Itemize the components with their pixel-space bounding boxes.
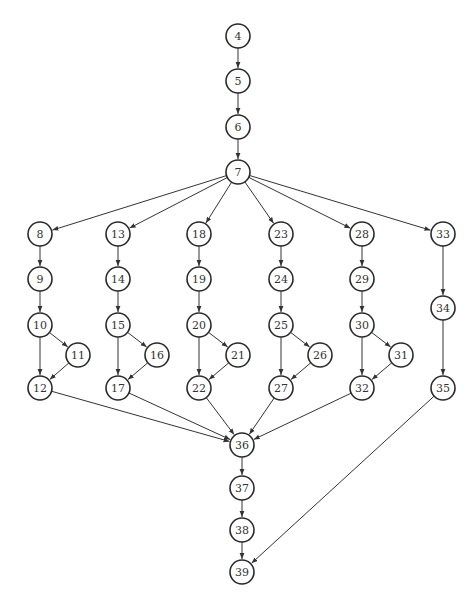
node-label: 38 — [235, 524, 249, 537]
node-label: 5 — [235, 75, 242, 88]
edge-10-to-11 — [49, 332, 67, 347]
node-11: 11 — [66, 343, 90, 367]
node-17: 17 — [106, 376, 130, 400]
node-32: 32 — [350, 376, 374, 400]
edge-35-to-39 — [252, 396, 435, 563]
node-label: 11 — [71, 349, 85, 362]
node-35: 35 — [431, 376, 455, 400]
edge-16-to-17 — [128, 363, 148, 380]
edge-7-to-18 — [206, 182, 232, 223]
node-39: 39 — [230, 560, 254, 584]
node-label: 10 — [33, 319, 47, 332]
node-18: 18 — [187, 222, 211, 246]
node-29: 29 — [350, 267, 374, 291]
node-label: 16 — [150, 349, 164, 362]
node-label: 24 — [274, 273, 288, 286]
node-34: 34 — [431, 296, 455, 320]
node-label: 9 — [37, 273, 44, 286]
node-19: 19 — [187, 267, 211, 291]
node-label: 20 — [192, 319, 206, 332]
node-27: 27 — [269, 376, 293, 400]
node-10: 10 — [28, 313, 52, 337]
node-label: 12 — [33, 382, 47, 395]
node-label: 6 — [235, 121, 242, 134]
control-flow-graph: 4567891011121314151617181920212223242526… — [0, 0, 476, 602]
nodes-layer: 4567891011121314151617181920212223242526… — [28, 24, 455, 584]
node-label: 30 — [355, 319, 369, 332]
node-6: 6 — [226, 115, 250, 139]
node-8: 8 — [28, 222, 52, 246]
node-label: 26 — [313, 349, 327, 362]
edge-21-to-22 — [209, 363, 229, 380]
node-12: 12 — [28, 376, 52, 400]
edge-26-to-27 — [291, 363, 311, 380]
node-label: 35 — [436, 382, 450, 395]
node-20: 20 — [187, 313, 211, 337]
node-label: 27 — [274, 382, 288, 395]
node-label: 37 — [235, 482, 249, 495]
edge-20-to-21 — [209, 332, 228, 347]
node-label: 21 — [231, 349, 245, 362]
node-label: 39 — [235, 566, 249, 579]
node-label: 31 — [394, 349, 408, 362]
node-24: 24 — [269, 267, 293, 291]
edge-15-to-16 — [128, 332, 147, 347]
node-label: 14 — [111, 273, 125, 286]
node-label: 22 — [192, 382, 206, 395]
edge-31-to-32 — [372, 363, 392, 380]
node-label: 13 — [111, 228, 125, 241]
node-label: 34 — [436, 302, 450, 315]
node-21: 21 — [226, 343, 250, 367]
edge-22-to-36 — [206, 398, 234, 435]
node-label: 29 — [355, 273, 369, 286]
edge-7-to-28 — [249, 177, 351, 228]
node-22: 22 — [187, 376, 211, 400]
node-23: 23 — [269, 222, 293, 246]
node-28: 28 — [350, 222, 374, 246]
node-5: 5 — [226, 69, 250, 93]
edge-7-to-13 — [130, 178, 228, 229]
node-14: 14 — [106, 267, 130, 291]
node-15: 15 — [106, 313, 130, 337]
node-13: 13 — [106, 222, 130, 246]
node-label: 15 — [111, 319, 125, 332]
node-label: 33 — [436, 228, 450, 241]
edge-25-to-26 — [291, 332, 310, 347]
node-30: 30 — [350, 313, 374, 337]
node-label: 18 — [192, 228, 206, 241]
node-label: 4 — [235, 30, 242, 43]
node-label: 23 — [274, 228, 288, 241]
edge-11-to-12 — [50, 363, 69, 380]
edge-32-to-36 — [254, 393, 351, 439]
node-label: 8 — [37, 228, 44, 241]
edge-17-to-36 — [129, 393, 230, 440]
node-label: 36 — [235, 439, 249, 452]
node-4: 4 — [226, 24, 250, 48]
node-label: 19 — [192, 273, 206, 286]
node-16: 16 — [145, 343, 169, 367]
node-label: 32 — [355, 382, 369, 395]
node-26: 26 — [308, 343, 332, 367]
node-label: 17 — [111, 382, 125, 395]
edge-27-to-36 — [249, 398, 274, 434]
node-38: 38 — [230, 518, 254, 542]
node-label: 7 — [235, 166, 242, 179]
node-37: 37 — [230, 476, 254, 500]
edge-30-to-31 — [372, 332, 391, 347]
node-label: 25 — [274, 319, 288, 332]
node-36: 36 — [230, 433, 254, 457]
node-label: 28 — [355, 228, 369, 241]
node-31: 31 — [389, 343, 413, 367]
node-33: 33 — [431, 222, 455, 246]
node-7: 7 — [226, 160, 250, 184]
node-9: 9 — [28, 267, 52, 291]
node-25: 25 — [269, 313, 293, 337]
